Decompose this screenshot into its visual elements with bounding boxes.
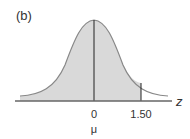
panel-label: (b) (16, 8, 32, 23)
mu-label: μ (91, 123, 97, 135)
axis-label-z: z (175, 94, 183, 109)
normal-curve-chart: (b) z 0 1.50 μ (0, 0, 190, 139)
tick-0: 0 (91, 108, 97, 120)
tick-1-50: 1.50 (130, 108, 151, 120)
shaded-area (20, 20, 141, 101)
